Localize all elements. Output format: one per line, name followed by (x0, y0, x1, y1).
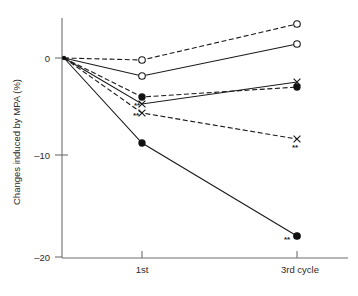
x-tick-label-1st: 1st (136, 264, 149, 275)
x-tick-label-3rd-cycle: 3rd cycle (281, 264, 319, 275)
line-chart: 0 –10 –20 1st 3rd cycle Changes induced … (0, 0, 358, 296)
data-point-open-circle-dashed-1st (139, 57, 146, 64)
series-line-open-circle-solid (64, 44, 297, 76)
data-point-filled-circle-solid-1st (139, 140, 145, 146)
y-axis-title: Changes induced by MPA (%) (11, 79, 22, 205)
data-point-filled-circle-dashed-3rd (294, 84, 300, 90)
data-point-filled-circle-dashed-1st (139, 94, 145, 100)
significance-label-cross-dashed-3rd: ** (292, 143, 299, 152)
data-point-open-circle-solid-3rd (294, 41, 301, 48)
series-line-open-circle-dashed (64, 24, 297, 60)
data-point-origin (62, 56, 65, 59)
series-line-filled-circle-solid (64, 58, 297, 236)
significance-label-cross-dashed-1st: ** (133, 111, 140, 120)
y-tick-label-minus20: –20 (34, 252, 50, 263)
data-point-open-circle-solid-1st (139, 73, 146, 80)
significance-label-cross-solid-1st: ** (134, 101, 141, 110)
significance-label-filled-circle-solid-3rd: ** (284, 235, 291, 244)
series-line-cross-solid (64, 58, 297, 104)
data-point-cross-dashed-1st (139, 110, 146, 117)
y-tick-label-0: 0 (45, 53, 50, 64)
chart-container: 0 –10 –20 1st 3rd cycle Changes induced … (0, 0, 358, 296)
data-point-cross-dashed-3rd (294, 136, 301, 143)
series-line-filled-circle-dashed (64, 58, 297, 97)
data-point-open-circle-dashed-3rd (294, 21, 301, 28)
y-tick-label-minus10: –10 (34, 150, 50, 161)
data-point-filled-circle-solid-3rd (294, 233, 301, 240)
